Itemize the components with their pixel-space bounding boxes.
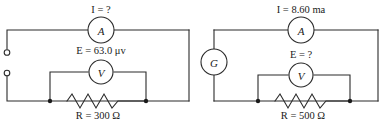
left-ammeter-label: A	[97, 25, 105, 37]
right-resistor-label: R = 500 Ω	[281, 110, 326, 121]
left-voltmeter-left-leg	[50, 72, 88, 101]
right-current-label: I = 8.60 ma	[277, 4, 326, 15]
left-emf-label: E = 63.0 μv	[76, 45, 126, 56]
left-circuit: A V I = ? E = 63.0 μv R = 300 Ω	[4, 4, 189, 121]
right-source-label: G	[210, 57, 218, 69]
right-voltmeter-right-leg	[314, 75, 350, 101]
left-current-label: I = ?	[91, 4, 111, 15]
left-node-dot-b	[144, 99, 148, 103]
right-node-dot-b	[348, 99, 352, 103]
right-node-dot-a	[256, 99, 260, 103]
left-node-dot-a	[48, 99, 52, 103]
right-emf-label: E = ?	[290, 49, 313, 60]
right-circuit: G A V I = 8.60 ma E = ? R = 500 Ω	[201, 4, 378, 121]
left-terminal-bottom[interactable]	[4, 70, 10, 76]
left-resistor-label: R = 300 Ω	[76, 110, 121, 121]
left-voltmeter-right-leg	[114, 72, 146, 101]
right-ammeter-label: A	[297, 25, 305, 37]
right-voltmeter-left-leg	[258, 75, 288, 101]
left-terminal-top[interactable]	[4, 50, 10, 56]
circuit-figure: A V I = ? E = 63.0 μv R = 300 Ω	[0, 0, 392, 124]
